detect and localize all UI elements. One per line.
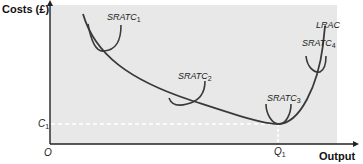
sratc3-label-main: SRATC xyxy=(267,93,297,103)
sratc4-label: SRATC4 xyxy=(302,39,336,49)
y-axis-label: Costs (£) xyxy=(2,4,49,15)
sratc4-label-sub: 4 xyxy=(332,42,336,49)
sratc1-label-sub: 1 xyxy=(137,16,141,23)
q1-label: Q1 xyxy=(274,147,286,158)
sratc1-label: SRATC1 xyxy=(107,13,141,23)
diagram-canvas xyxy=(0,0,363,164)
sratc3-label: SRATC3 xyxy=(267,94,301,104)
sratc2-label-sub: 2 xyxy=(208,75,212,82)
lrac-label: LRAC xyxy=(316,21,340,30)
q1-label-main: Q xyxy=(274,146,282,157)
cost-curve-diagram: Costs (£) Output O C1 Q1 SRATC1 SRATC2 S… xyxy=(0,0,363,164)
x-axis-label: Output xyxy=(319,151,355,162)
sratc2-label-main: SRATC xyxy=(178,71,208,81)
c1-label-sub: 1 xyxy=(45,123,49,130)
sratc3-label-sub: 3 xyxy=(297,97,301,104)
x-axis-arrow-icon xyxy=(353,141,359,147)
c1-label: C1 xyxy=(38,119,49,130)
sratc2-label: SRATC2 xyxy=(178,72,212,82)
origin-label: O xyxy=(44,148,52,158)
q1-label-sub: 1 xyxy=(282,151,286,158)
sratc4-label-main: SRATC xyxy=(302,38,332,48)
sratc1-label-main: SRATC xyxy=(107,12,137,22)
